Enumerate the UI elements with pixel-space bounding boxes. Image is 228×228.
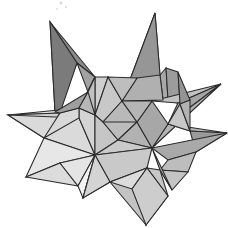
figure-root <box>0 0 228 228</box>
stellated-polyhedron-figure <box>0 0 228 228</box>
scan-speck-a <box>59 1 62 4</box>
scan-speck-c <box>56 8 58 10</box>
scan-speck-b <box>65 6 67 8</box>
